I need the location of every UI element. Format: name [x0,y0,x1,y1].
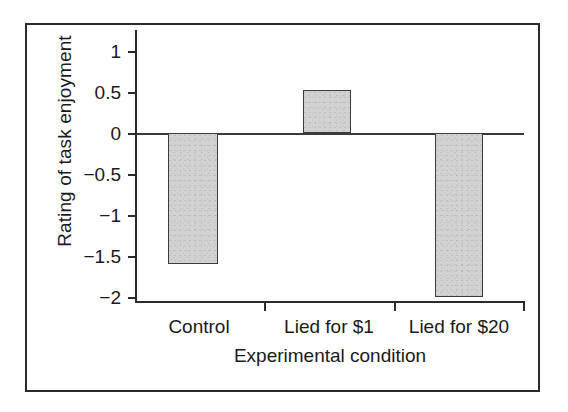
y-tick-0p5: 0.5 [128,92,137,94]
bar-control[interactable] [168,133,218,264]
y-tick-label-neg2: −2 [61,287,121,309]
y-axis-spine [135,30,137,303]
plot-area: 1 0.5 0 −0.5 −1 −1.5 −2 Control Lied for… [135,30,525,326]
y-tick-label-neg0p5: −0.5 [61,164,121,186]
y-tick-neg1: −1 [128,215,137,217]
x-tick-sep-1 [264,301,266,311]
y-tick-neg1p5: −1.5 [128,256,137,258]
y-tick-label-neg1: −1 [61,205,121,227]
x-tick-sep-3 [523,301,525,311]
figure-frame: Rating of task enjoyment 1 0.5 0 −0.5 −1… [25,23,540,392]
y-tick-label-0p5: 0.5 [61,82,121,104]
y-tick-label-neg1p5: −1.5 [61,246,121,268]
bar-lied-for-1[interactable] [303,90,351,133]
x-category-label-lied-for-1: Lied for $1 [284,316,374,338]
x-category-label-control: Control [168,316,229,338]
y-tick-label-1: 1 [61,41,121,63]
y-tick-neg2: −2 [128,297,137,299]
x-category-label-lied-for-20: Lied for $20 [409,316,509,338]
y-tick-1: 1 [128,51,137,53]
y-tick-neg0p5: −0.5 [128,174,137,176]
y-tick-label-0: 0 [61,123,121,145]
y-tick-0: 0 [128,133,137,135]
x-axis-title: Experimental condition [135,345,525,367]
x-tick-sep-2 [394,301,396,311]
bar-lied-for-20[interactable] [435,133,483,297]
x-axis-spine [135,301,525,303]
